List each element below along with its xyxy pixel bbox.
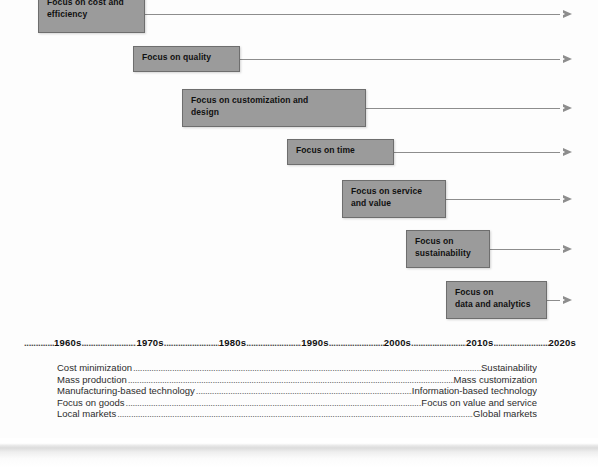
decade-label: 2000s xyxy=(384,337,411,348)
phase-box-label-line2: efficiency xyxy=(47,9,137,21)
phase-box-label-line1: Focus on cost and xyxy=(47,0,137,9)
shift-leader-dots: ........................................… xyxy=(125,397,422,409)
shift-to-label: Mass customization xyxy=(454,374,537,386)
arrow-head-icon xyxy=(563,245,572,253)
decade-leader-dots: ........................................… xyxy=(494,337,549,348)
shift-leader-dots: ........................................… xyxy=(127,374,454,386)
shift-leader-dots: ........................................… xyxy=(116,408,473,420)
shift-from-label: Focus on goods xyxy=(57,397,125,409)
phase-box[interactable]: Focus on customization anddesign xyxy=(182,89,366,127)
decade-leader-dots: ........................................… xyxy=(329,337,384,348)
phase-box-label-line1: Focus on xyxy=(415,236,482,248)
shift-leader-dots: ........................................… xyxy=(132,362,481,374)
phase-arrow-line xyxy=(490,249,563,250)
phase-box-label-line1: Focus on xyxy=(455,287,539,299)
phase-box[interactable]: Focus on serviceand value xyxy=(342,180,446,218)
phase-box-label-line1: Focus on time xyxy=(296,145,386,157)
phase-box-label-line2: and value xyxy=(351,198,438,210)
shift-row: Mass production.........................… xyxy=(57,374,537,386)
decade-leader-dots: ........................................… xyxy=(164,337,219,348)
phase-box[interactable]: Focus onsustainability xyxy=(406,230,490,268)
decade-label: 1980s xyxy=(219,337,246,348)
arrow-head-icon xyxy=(563,148,572,156)
phase-arrow-line xyxy=(145,14,563,15)
shift-from-label: Mass production xyxy=(57,374,127,386)
phase-box-label-line2: data and analytics xyxy=(455,299,539,311)
shift-leader-dots: ........................................… xyxy=(195,385,412,397)
shift-from-label: Local markets xyxy=(57,408,116,420)
shift-from-label: Cost minimization xyxy=(57,362,132,374)
decade-axis: ........................................… xyxy=(24,334,576,350)
arrow-head-icon xyxy=(563,55,572,63)
shift-row: Focus on goods..........................… xyxy=(57,397,537,409)
phase-box[interactable]: Focus on quality xyxy=(133,46,240,72)
phase-arrow-line xyxy=(446,199,563,200)
decade-leader-dots: ........................................… xyxy=(24,337,54,348)
phase-box-label-line2: design xyxy=(191,107,358,119)
phase-box[interactable]: Focus on time xyxy=(287,139,394,165)
shift-row: Manufacturing-based technology..........… xyxy=(57,385,537,397)
arrow-head-icon xyxy=(563,10,572,18)
shift-from-label: Manufacturing-based technology xyxy=(57,385,195,397)
arrow-head-icon xyxy=(563,104,572,112)
decade-label: 1990s xyxy=(301,337,328,348)
decade-leader-dots: ........................................… xyxy=(246,337,301,348)
arrow-head-icon xyxy=(563,296,572,304)
phase-box-label-line1: Focus on quality xyxy=(142,52,232,64)
timeline-diagram: Focus on cost andefficiencyFocus on qual… xyxy=(0,0,598,467)
decade-label: 2020s xyxy=(549,337,576,348)
decade-label: 2010s xyxy=(466,337,493,348)
decade-label: 1960s xyxy=(54,337,81,348)
phase-arrow-line xyxy=(394,152,563,153)
phase-box-label-line1: Focus on customization and xyxy=(191,95,358,107)
decade-label: 1970s xyxy=(136,337,163,348)
decade-leader-dots: ........................................… xyxy=(411,337,466,348)
phase-timeline-stage: Focus on cost andefficiencyFocus on qual… xyxy=(0,0,598,330)
shift-list: Cost minimization.......................… xyxy=(57,362,537,420)
shift-to-label: Global markets xyxy=(473,408,537,420)
phase-arrow-line xyxy=(240,59,563,60)
shift-row: Cost minimization.......................… xyxy=(57,362,537,374)
phase-box-label-line2: sustainability xyxy=(415,248,482,260)
phase-box-label-line1: Focus on service xyxy=(351,186,438,198)
shift-to-label: Focus on value and service xyxy=(421,397,537,409)
shift-row: Local markets...........................… xyxy=(57,408,537,420)
phase-box[interactable]: Focus on cost andefficiency xyxy=(38,0,145,33)
phase-box[interactable]: Focus ondata and analytics xyxy=(446,281,547,319)
shift-to-label: Information-based technology xyxy=(412,385,537,397)
shift-to-label: Sustainability xyxy=(481,362,537,374)
phase-arrow-line xyxy=(366,108,563,109)
decade-leader-dots: ........................................… xyxy=(81,337,136,348)
page-edge-artifact xyxy=(0,438,598,467)
arrow-head-icon xyxy=(563,195,572,203)
